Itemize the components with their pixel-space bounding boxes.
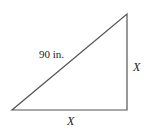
- vertical-leg-label: X: [133, 61, 140, 73]
- horizontal-leg-label: X: [67, 115, 74, 127]
- triangle-outline: [12, 14, 127, 110]
- right-triangle-diagram: 90 in. X X: [0, 0, 147, 132]
- triangle-shape: [0, 0, 147, 132]
- hypotenuse-label: 90 in.: [39, 49, 64, 60]
